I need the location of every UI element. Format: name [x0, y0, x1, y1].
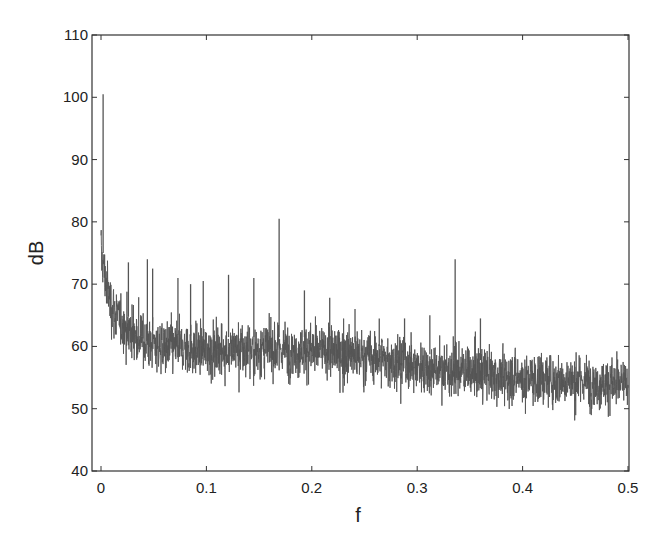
y-axis-ticks: 405060708090100110	[63, 26, 629, 479]
spectrum-line	[101, 230, 628, 420]
y-tick-label: 40	[71, 462, 88, 479]
spectrum-chart: 00.10.20.30.40.5 405060708090100110 f dB	[0, 0, 668, 548]
spectral-peaks	[103, 94, 480, 360]
y-tick-label: 50	[71, 400, 88, 417]
x-axis-ticks: 00.10.20.30.40.5	[97, 35, 639, 496]
y-tick-label: 100	[63, 88, 88, 105]
y-tick-label: 110	[64, 26, 88, 43]
x-tick-label: 0.5	[618, 479, 639, 496]
x-axis-label: f	[355, 504, 361, 526]
y-tick-label: 90	[71, 151, 88, 168]
x-tick-label: 0	[97, 479, 105, 496]
x-tick-label: 0.1	[196, 479, 217, 496]
y-axis-label: dB	[25, 241, 47, 265]
y-tick-label: 60	[71, 337, 88, 354]
spectrum-trace	[101, 230, 628, 420]
x-tick-label: 0.4	[512, 479, 533, 496]
y-tick-label: 80	[71, 213, 88, 230]
y-tick-label: 70	[71, 275, 88, 292]
x-tick-label: 0.3	[407, 479, 428, 496]
x-tick-label: 0.2	[301, 479, 322, 496]
